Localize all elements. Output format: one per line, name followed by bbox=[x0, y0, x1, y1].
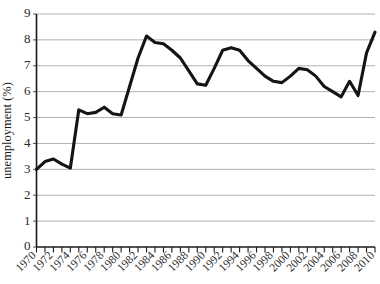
x-axis-tick-labels: 1970197219741976197819801982198419861988… bbox=[13, 249, 376, 274]
chart-canvas: 0123456789 19701972197419761978198019821… bbox=[0, 0, 380, 284]
y-tick-label: 4 bbox=[24, 135, 31, 150]
y-tick-label: 3 bbox=[24, 161, 31, 176]
y-tick-label: 5 bbox=[24, 109, 31, 124]
y-tick-label: 1 bbox=[24, 213, 31, 228]
y-tick-label: 7 bbox=[24, 57, 31, 72]
x-axis-tick-marks bbox=[37, 247, 376, 253]
y-axis-title: unemployment (%) bbox=[0, 82, 14, 179]
x-tick-label: 2010 bbox=[352, 249, 377, 274]
unemployment-line-chart: 0123456789 19701972197419761978198019821… bbox=[0, 0, 380, 284]
unemployment-series-line bbox=[37, 32, 376, 169]
y-tick-label: 2 bbox=[24, 187, 31, 202]
y-tick-label: 8 bbox=[24, 31, 31, 46]
y-tick-label: 6 bbox=[24, 83, 31, 98]
y-axis-tick-labels: 0123456789 bbox=[24, 5, 31, 253]
gridlines bbox=[37, 14, 376, 221]
y-tick-label: 9 bbox=[24, 5, 31, 20]
